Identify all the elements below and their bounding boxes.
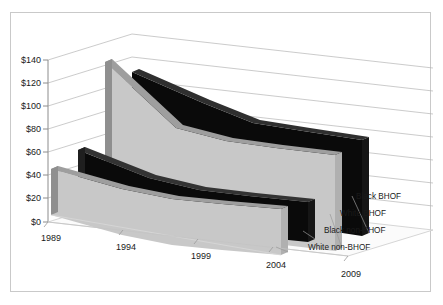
chart-container: $140 $120 $100 $80 $60 $40 $20 $0 1989 1… (0, 0, 443, 305)
y-axis-label-100: $100 (21, 101, 41, 111)
x-axis-label-1994: 1994 (116, 242, 136, 252)
y-axis-label-0: $0 (31, 217, 41, 227)
y-axis-label-60: $60 (26, 147, 41, 157)
series-black-non-bhof-side (308, 199, 315, 242)
y-axis-label-120: $120 (21, 78, 41, 88)
y-axis-label-80: $80 (26, 124, 41, 134)
series-white-non-bhof-left-cap (51, 166, 58, 215)
y-axis-label-40: $40 (26, 170, 41, 180)
x-tick-1989 (44, 222, 48, 227)
series-label-white-non-bhof: White non-BHOF (308, 243, 370, 252)
series-label-black-bhof: Black BHOF (356, 192, 401, 201)
x-axis-label-1999: 1999 (191, 251, 211, 261)
y-axis-tick-labels: $140 $120 $100 $80 $60 $40 $20 $0 (21, 55, 41, 227)
series-black-bhof-side (362, 137, 369, 236)
y-axis-label-140: $140 (21, 55, 41, 65)
x-axis-label-1989: 1989 (41, 233, 61, 243)
series-white-non-bhof-side (281, 206, 288, 255)
x-axis-label-2004: 2004 (266, 260, 286, 270)
x-tick-2009 (344, 256, 348, 261)
y-axis-label-20: $20 (26, 193, 41, 203)
series-label-white-bhof: White BHOF (340, 209, 386, 218)
series-white-bhof-side (335, 152, 342, 251)
chart-3d-area-plot: $140 $120 $100 $80 $60 $40 $20 $0 1989 1… (0, 0, 443, 305)
series-label-black-non-bhof: Black non-BHOF (324, 226, 385, 235)
x-axis-label-2009: 2009 (341, 269, 361, 279)
y-axis (43, 60, 48, 222)
